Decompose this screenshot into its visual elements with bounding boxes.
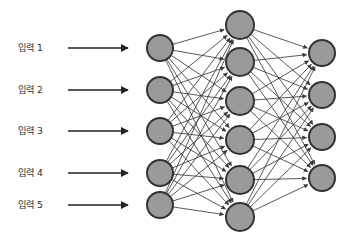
input-layer-node-1 (147, 35, 173, 61)
canvas-background (0, 0, 354, 243)
input-label-3: 입력 3 (18, 125, 43, 136)
hidden-layer-node-3 (226, 87, 254, 115)
output-layer-node-3 (309, 124, 335, 150)
output-layer-node-1 (309, 40, 335, 66)
input-layer-node-4 (147, 160, 173, 186)
neural-network-diagram: 입력 1입력 2입력 3입력 4입력 5 (0, 0, 354, 243)
diagram-canvas: 입력 1입력 2입력 3입력 4입력 5 (0, 0, 354, 243)
hidden-layer-node-1 (226, 11, 254, 39)
input-layer-node-3 (147, 118, 173, 144)
input-label-2: 입력 2 (18, 84, 43, 95)
input-layer-node-5 (147, 192, 173, 218)
output-layer-node-2 (309, 82, 335, 108)
input-label-5: 입력 5 (18, 199, 43, 210)
input-label-4: 입력 4 (18, 167, 43, 178)
hidden-layer-node-6 (226, 203, 254, 231)
input-layer-node-2 (147, 77, 173, 103)
input-label-1: 입력 1 (18, 42, 43, 53)
hidden-layer-node-5 (226, 166, 254, 194)
output-layer-node-4 (309, 165, 335, 191)
hidden-layer-node-2 (226, 48, 254, 76)
hidden-layer-node-4 (226, 126, 254, 154)
